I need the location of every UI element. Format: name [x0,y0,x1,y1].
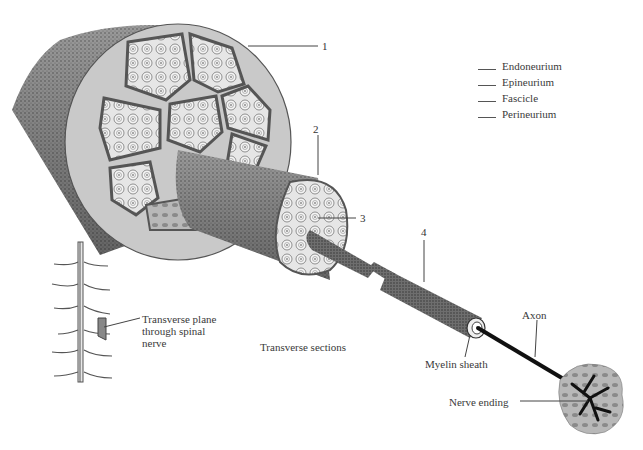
axon-line [478,328,572,384]
callout-1: 1 [322,40,328,52]
nerve-ending [559,364,623,434]
answer-blank[interactable] [478,69,496,70]
legend-item-fascicle: Fascicle [478,90,562,106]
spinal-cord-inset [52,242,112,382]
answer-blank[interactable] [478,101,496,102]
callout-3: 3 [360,212,366,224]
answer-blank[interactable] [478,117,496,118]
legend-item-perineurium: Perineurium [478,106,562,122]
legend-item-endoneurium: Endoneurium [478,58,562,74]
myelin-sheath-label: Myelin sheath [425,358,488,370]
transverse-sections-label: Transverse sections [260,341,346,353]
axon-label: Axon [522,309,546,321]
term-legend: Endoneurium Epineurium Fascicle Perineur… [478,58,562,122]
nerve-diagram: 1 2 3 4 Endoneurium Epineurium Fascicle … [0,0,643,450]
answer-blank[interactable] [478,85,496,86]
transverse-plane-label: Transverse plane through spinal nerve [142,313,216,349]
legend-item-epineurium: Epineurium [478,74,562,90]
callout-2: 2 [313,123,319,135]
nerve-ending-label: Nerve ending [449,396,509,408]
callout-4: 4 [421,226,427,238]
fascicle-segment [176,150,348,280]
